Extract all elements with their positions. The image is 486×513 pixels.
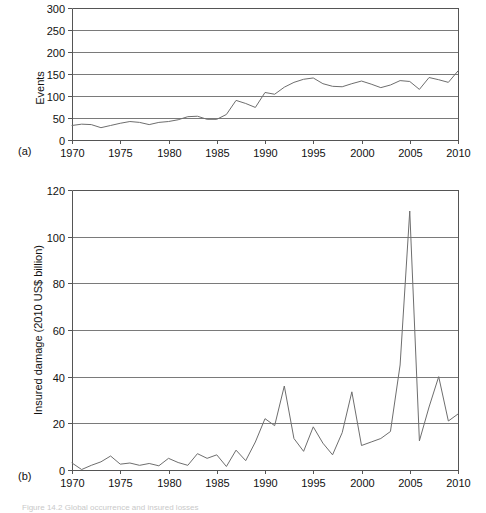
y-axis-title-b: Insured damage (2010 US$ billion) [32, 245, 44, 415]
x-tick-label: 1985 [205, 147, 229, 159]
y-tick-label: 0 [59, 465, 65, 477]
y-tick-label: 300 [47, 3, 65, 15]
x-tick-label: 2005 [398, 477, 422, 489]
x-tick-label: 2010 [446, 147, 470, 159]
series-b [72, 211, 458, 470]
x-tick-label: 1985 [205, 477, 229, 489]
x-tick-label: 1990 [253, 477, 277, 489]
x-tick-label: 1970 [60, 147, 84, 159]
chart-panel-b: 020406080100120 197019751980198519901995… [0, 175, 486, 495]
series-a [72, 71, 458, 128]
x-tick-labels-b: 197019751980198519901995200020052010 [60, 477, 470, 489]
gridlines-a [72, 9, 458, 119]
y-tick-labels-b: 020406080100120 [47, 185, 65, 477]
x-tick-label: 1980 [157, 477, 181, 489]
x-tick-label: 1980 [157, 147, 181, 159]
y-tick-label: 100 [47, 91, 65, 103]
insured-damage-line-chart: 020406080100120 197019751980198519901995… [0, 175, 486, 495]
data-series-line [72, 211, 458, 470]
gridlines-b [72, 191, 458, 424]
x-tick-label: 1970 [60, 477, 84, 489]
y-tick-label: 80 [53, 278, 65, 290]
y-tick-label: 150 [47, 69, 65, 81]
x-tick-label: 1990 [253, 147, 277, 159]
tickmarks-a [68, 9, 459, 145]
y-tick-label: 0 [59, 135, 65, 147]
chart-panel-a: 050100150200250300 197019751980198519901… [0, 0, 486, 175]
figure-container: 050100150200250300 197019751980198519901… [0, 0, 486, 513]
panel-label-a: (a) [18, 145, 31, 157]
tickmarks-b [68, 191, 459, 475]
events-line-chart: 050100150200250300 197019751980198519901… [0, 0, 486, 175]
y-tick-label: 40 [53, 372, 65, 384]
x-tick-label: 2000 [350, 477, 374, 489]
y-tick-labels-a: 050100150200250300 [47, 3, 65, 147]
y-tick-label: 50 [53, 113, 65, 125]
y-tick-label: 200 [47, 47, 65, 59]
x-tick-label: 1995 [301, 477, 325, 489]
x-tick-label: 2010 [446, 477, 470, 489]
x-tick-label: 1995 [301, 147, 325, 159]
y-axis-title-a: Events [34, 71, 46, 105]
x-tick-labels-a: 197019751980198519901995200020052010 [60, 147, 470, 159]
figure-caption: Figure 14.2 Global occurrence and insure… [22, 503, 462, 513]
data-series-line [72, 71, 458, 128]
x-tick-label: 2005 [398, 147, 422, 159]
y-tick-label: 20 [53, 418, 65, 430]
x-tick-label: 1975 [108, 147, 132, 159]
y-tick-label: 120 [47, 185, 65, 197]
y-tick-label: 250 [47, 25, 65, 37]
y-tick-label: 100 [47, 232, 65, 244]
x-tick-label: 1975 [108, 477, 132, 489]
panel-label-b: (b) [18, 470, 31, 482]
x-tick-label: 2000 [350, 147, 374, 159]
y-tick-label: 60 [53, 325, 65, 337]
